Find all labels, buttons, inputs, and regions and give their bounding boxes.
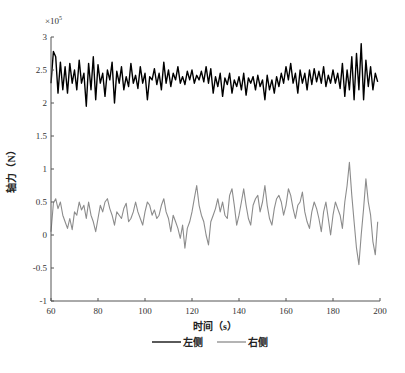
x-tick-label: 60: [47, 306, 57, 316]
y-tick-label: 3: [43, 32, 48, 42]
y-tick-label: -1: [40, 296, 48, 306]
legend: 左侧 右侧: [152, 336, 268, 348]
y-tick-label: 2.5: [36, 65, 48, 75]
x-tick-label: 140: [232, 306, 246, 316]
legend-label-right: 右侧: [247, 336, 268, 348]
x-tick-label: 80: [94, 306, 104, 316]
y-tick-label: 0.5: [36, 197, 48, 207]
y-multiplier: ×105: [45, 15, 62, 26]
y-tick-label: -0.5: [33, 263, 48, 273]
x-tick-label: 180: [326, 306, 340, 316]
x-tick-label: 120: [185, 306, 199, 316]
legend-label-left: 左侧: [182, 336, 203, 348]
series-right-line: [51, 162, 378, 264]
x-axis-title: 时间（s）: [193, 320, 237, 332]
x-tick-label: 200: [373, 306, 387, 316]
x-tick-label: 100: [138, 306, 152, 316]
y-tick-label: 1: [43, 164, 48, 174]
y-tick-label: 0: [43, 230, 48, 240]
x-tick-label: 160: [279, 306, 293, 316]
y-tick-label: 2: [43, 98, 48, 108]
line-chart: -1-0.500.511.522.53 60801001201401601802…: [0, 0, 405, 373]
y-tick-label: 1.5: [36, 131, 48, 141]
y-axis-title: 轴力（N）: [5, 145, 17, 192]
series-left-line: [51, 44, 378, 107]
plot-lines: [51, 44, 378, 265]
